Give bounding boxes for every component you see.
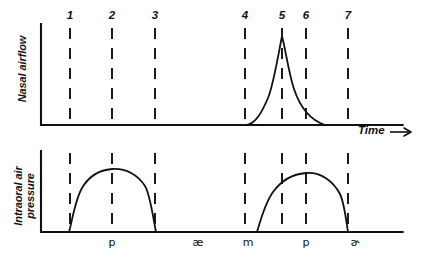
panel-nasal-airflow <box>41 23 403 125</box>
intraoral-pressure-curve-1 <box>41 169 257 232</box>
intraoral-pressure-marker-lines <box>70 153 348 231</box>
marker-number-6: 6 <box>303 9 309 21</box>
intraoral-pressure-curve-2 <box>257 173 403 232</box>
phonetic-label-p-2: p <box>303 236 310 249</box>
marker-number-4: 4 <box>242 9 248 21</box>
time-arrow-icon <box>390 128 411 136</box>
marker-number-7: 7 <box>345 9 351 21</box>
panel-intraoral-air-pressure <box>41 150 403 232</box>
y-axis-label-intraoral-pressure: Intraoral air pressure <box>12 156 38 236</box>
phonetic-label-p-1: p <box>109 236 116 249</box>
marker-number-2: 2 <box>109 9 115 21</box>
y-axis-label-nasal-airflow: Nasal airflow <box>16 29 30 109</box>
marker-number-5: 5 <box>279 9 285 21</box>
phonetic-label-schwa-r: ɚ <box>350 236 359 249</box>
x-axis-label-time: Time <box>358 124 385 136</box>
nasal-airflow-marker-lines <box>70 28 348 124</box>
phonetic-label-m: m <box>243 236 254 249</box>
marker-number-3: 3 <box>152 9 158 21</box>
phonetic-label-ae: æ <box>193 236 204 249</box>
marker-number-1: 1 <box>67 9 73 21</box>
figure-canvas: Nasal airflow Intraoral air pressure Tim… <box>0 0 427 257</box>
